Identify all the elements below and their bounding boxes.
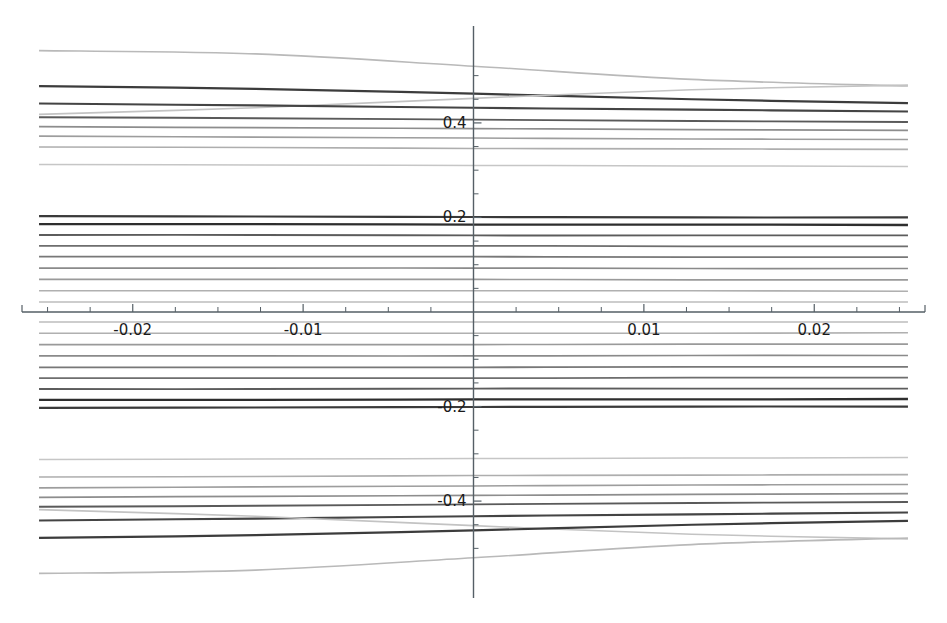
x-tick-label: 0.02 xyxy=(798,321,831,339)
y-tick-label: -0.2 xyxy=(437,398,466,416)
band-structure-plot: -0.02-0.010.010.02-0.4-0.20.20.4 xyxy=(0,0,947,623)
x-tick-label: -0.02 xyxy=(113,321,152,339)
y-tick-label: -0.4 xyxy=(437,492,466,510)
y-tick-label: 0.2 xyxy=(443,208,467,226)
x-tick-label: -0.01 xyxy=(284,321,323,339)
y-tick-label: 0.4 xyxy=(443,114,467,132)
chart-figure: -0.02-0.010.010.02-0.4-0.20.20.4 xyxy=(0,0,947,623)
x-tick-label: 0.01 xyxy=(627,321,660,339)
